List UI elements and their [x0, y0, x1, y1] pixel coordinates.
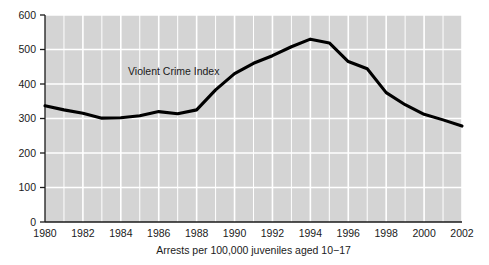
- x-axis-tick-label: 2000: [412, 227, 436, 239]
- y-axis-tick-label: 600: [18, 9, 36, 21]
- x-axis-tick-label: 1996: [337, 227, 361, 239]
- x-axis-title: Arrests per 100,000 juveniles aged 10−17: [156, 244, 351, 256]
- y-axis-tick-label: 500: [18, 43, 36, 55]
- y-axis-tick-label: 200: [18, 147, 36, 159]
- x-axis-tick-label: 1986: [147, 227, 171, 239]
- x-axis-tick-label: 1988: [185, 227, 209, 239]
- x-axis-tick-label: 1980: [33, 227, 57, 239]
- y-axis-tick-label: 100: [18, 181, 36, 193]
- x-axis-tick-label: 1998: [375, 227, 399, 239]
- x-axis-tick-label: 1992: [261, 227, 285, 239]
- x-axis-tick-label: 1994: [299, 227, 323, 239]
- x-axis-tick-label: 2002: [450, 227, 474, 239]
- x-axis-tick-label: 1984: [109, 227, 133, 239]
- y-axis-tick-label: 0: [30, 216, 36, 228]
- chart-figure: 0100200300400500600 19801982198419861988…: [0, 0, 489, 265]
- violent-crime-index-line-chart: 0100200300400500600 19801982198419861988…: [0, 0, 489, 265]
- x-axis-tick-label: 1982: [71, 227, 95, 239]
- x-axis-tick-label: 1990: [223, 227, 247, 239]
- series-inline-label: Violent Crime Index: [128, 65, 220, 77]
- y-axis-tick-label: 300: [18, 112, 36, 124]
- y-axis-tick-label: 400: [18, 78, 36, 90]
